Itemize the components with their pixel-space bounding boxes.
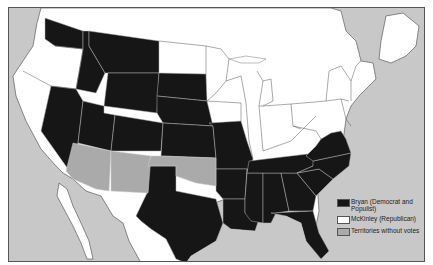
maritime-canada <box>379 13 419 63</box>
state-wyoming <box>104 73 159 113</box>
territory-arizona <box>66 143 111 191</box>
bryan-swatch-icon <box>337 199 350 207</box>
map-frame: Bryan (Democrat and Populist) McKinley (… <box>8 7 425 262</box>
legend-label-territories: Territories without votes <box>351 227 419 234</box>
legend-item-bryan: Bryan (Democrat and Populist) <box>337 198 425 212</box>
state-mississippi <box>245 173 263 223</box>
state-kansas <box>161 123 216 158</box>
mckinley-swatch-icon <box>337 216 350 224</box>
legend-item-mckinley: McKinley (Republican) <box>337 215 425 224</box>
legend-label-bryan: Bryan (Democrat and Populist) <box>351 198 425 212</box>
territory-swatch-icon <box>337 228 350 236</box>
baja-peninsula <box>57 183 93 259</box>
legend-label-mckinley: McKinley (Republican) <box>351 215 416 222</box>
legend-item-territories: Territories without votes <box>337 227 425 236</box>
territory-new-mexico <box>111 151 151 193</box>
legend: Bryan (Democrat and Populist) McKinley (… <box>337 198 425 239</box>
state-arkansas <box>216 169 247 199</box>
